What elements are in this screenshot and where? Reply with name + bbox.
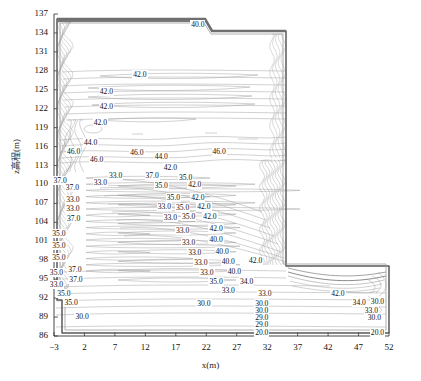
x-tick-label: 52 [380, 343, 398, 352]
contour-label: 35.0 [181, 212, 196, 221]
contour-label: 40.0 [208, 235, 223, 244]
contour-label: 35.0 [56, 289, 71, 298]
contour-label: 33.0 [65, 195, 80, 204]
x-tick-label: 2 [75, 343, 93, 352]
contour-label: 40.0 [221, 257, 236, 266]
contour-label: 42.0 [202, 212, 217, 221]
y-tick-label: 131 [24, 47, 48, 56]
contour-label: 42.0 [99, 102, 114, 111]
contour-label: 20.0 [254, 328, 269, 337]
contour-label: 30.0 [196, 299, 211, 308]
contour-label: 44.0 [83, 138, 98, 147]
contour-label: 46.0 [129, 148, 144, 157]
y-tick-label: 128 [24, 66, 48, 75]
contour-label: 42.0 [208, 224, 223, 233]
y-tick-label: 101 [24, 236, 48, 245]
contour-label: 20.0 [370, 328, 385, 337]
x-tick-label: 47 [350, 343, 368, 352]
contour-label: 37.0 [67, 265, 82, 274]
contour-label: 37.0 [65, 183, 80, 192]
contour-label: 33.0 [157, 202, 172, 211]
y-tick-label: 134 [24, 28, 48, 37]
contour-label: 33.0 [181, 238, 196, 247]
y-tick-label: 107 [24, 198, 48, 207]
contour-figure: z高程(m) x(m) [0, 0, 421, 381]
contour-label: 30.0 [367, 313, 382, 322]
contour-label: 33.0 [193, 258, 208, 267]
contour-label: 42.0 [93, 118, 108, 127]
contour-label: 37.0 [68, 275, 83, 284]
y-tick-label: 95 [24, 274, 48, 283]
contour-label: 35.0 [51, 229, 66, 238]
contour-label: 33.0 [65, 204, 80, 213]
contour-label: 40.0 [215, 247, 230, 256]
contour-label: 40.0 [227, 267, 242, 276]
contour-label: 33.0 [257, 289, 272, 298]
contour-label: 42.0 [187, 180, 202, 189]
x-tick-label: 17 [167, 343, 185, 352]
contour-label: 44.0 [154, 152, 169, 161]
y-tick-label: 119 [24, 123, 48, 132]
x-tick-label: 27 [228, 343, 246, 352]
contour-label: 33.0 [108, 171, 123, 180]
contour-label: 42.0 [190, 193, 205, 202]
contour-label: 33.0 [199, 268, 214, 277]
contour-label: 35.0 [49, 268, 64, 277]
y-tick-label: 116 [24, 142, 48, 151]
contour-label: 30.0 [370, 297, 385, 306]
contour-label: 34.0 [239, 277, 254, 286]
contour-label: 42.0 [132, 70, 147, 79]
contour-label: 33.0 [221, 286, 236, 295]
x-tick-label: 37 [289, 343, 307, 352]
y-tick-label: 98 [24, 255, 48, 264]
y-tick-label: 137 [24, 9, 48, 18]
x-tick-label: 42 [319, 343, 337, 352]
contour-label: 42.0 [163, 163, 178, 172]
y-tick-label: 92 [24, 293, 48, 302]
contour-canvas [0, 0, 421, 381]
contour-label: 37.0 [66, 214, 81, 223]
contour-label: 42.0 [99, 87, 114, 96]
x-tick-label: −3 [45, 343, 63, 352]
y-tick-label: 122 [24, 104, 48, 113]
contour-label: 35.0 [175, 203, 190, 212]
contour-label: 46.0 [89, 155, 104, 164]
x-tick-label: 22 [197, 343, 215, 352]
contour-label: 30.0 [74, 312, 89, 321]
contour-label: 33.0 [93, 178, 108, 187]
contour-label: 42.0 [196, 202, 211, 211]
y-tick-label: 104 [24, 217, 48, 226]
contour-label: 33.0 [187, 248, 202, 257]
y-tick-label: 86 [24, 331, 48, 340]
y-tick-label: 125 [24, 85, 48, 94]
contour-label: 42.0 [330, 289, 345, 298]
contour-label: 33.0 [49, 280, 64, 289]
contour-label: 35.0 [63, 298, 78, 307]
contour-label: 35.0 [51, 253, 66, 262]
contour-label: 46.0 [212, 147, 227, 156]
y-tick-label: 113 [24, 161, 48, 170]
y-tick-label: 110 [24, 179, 48, 188]
contour-label: 33.0 [163, 213, 178, 222]
contour-label: 35.0 [166, 193, 181, 202]
contour-label: 42.0 [248, 256, 263, 265]
contour-label: 35.0 [154, 181, 169, 190]
contour-label: 46.0 [66, 147, 81, 156]
contour-label: 37.0 [145, 171, 160, 180]
contour-label: 40.0 [190, 20, 205, 29]
y-tick-label: 89 [24, 312, 48, 321]
x-tick-label: 12 [136, 343, 154, 352]
x-tick-label: 7 [106, 343, 124, 352]
contour-label: 35.0 [51, 241, 66, 250]
contour-label: 33.0 [175, 226, 190, 235]
x-tick-label: 32 [258, 343, 276, 352]
